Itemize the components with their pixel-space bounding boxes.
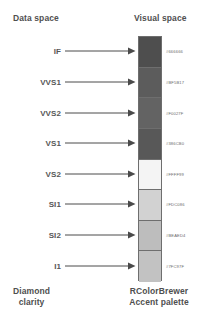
caption-rcolorbrewer-accent-line1: RColorBrewer (120, 286, 198, 297)
arrow-right-icon (65, 47, 136, 56)
palette-swatch-beaed4 (139, 221, 161, 252)
column-captions: Diamond clarity RColorBrewer Accent pale… (0, 286, 201, 314)
palette-swatch-386cb0 (139, 129, 161, 160)
caption-diamond-clarity-line1: Diamond (13, 286, 50, 297)
palette-hex-label: #BEAED4 (166, 233, 185, 238)
palette-hex-label: #FDC086 (166, 202, 185, 207)
header-visual-space: Visual space (134, 13, 187, 23)
arrow-right-icon (65, 77, 136, 86)
caption-diamond-clarity-line2: clarity (13, 297, 50, 308)
arrow-right-icon (65, 200, 136, 209)
arrow-right-icon (65, 169, 136, 178)
column-headers: Data space Visual space (0, 13, 201, 25)
caption-rcolorbrewer-accent: RColorBrewer Accent palette (120, 286, 198, 308)
caption-rcolorbrewer-accent-line2: Accent palette (120, 297, 198, 308)
arrow-right-icon (65, 261, 136, 270)
clarity-category-label-if: IF (0, 47, 61, 56)
clarity-category-label-vvs2: VVS2 (0, 108, 61, 117)
palette-swatch-7fc97f (139, 251, 161, 282)
arrow-right-icon (65, 139, 136, 148)
palette-hex-label: #F0027F (166, 110, 183, 115)
caption-diamond-clarity: Diamond clarity (13, 286, 50, 308)
palette-hex-label: #7FC97F (166, 263, 184, 268)
palette-hex-label: #386CB0 (166, 141, 184, 146)
palette-swatch-ffff99 (139, 160, 161, 191)
clarity-category-label-si1: SI1 (0, 200, 61, 209)
clarity-category-label-si2: SI2 (0, 231, 61, 240)
palette-hex-label: #FFFF99 (166, 171, 184, 176)
palette-swatch-bf5b17 (139, 68, 161, 99)
clarity-category-label-i1: I1 (0, 261, 61, 270)
arrow-right-icon (65, 108, 136, 117)
palette-hex-label: #666666 (166, 49, 183, 54)
palette-hex-label: #BF5B17 (166, 79, 184, 84)
header-data-space: Data space (13, 13, 59, 23)
palette-swatch-fdc086 (139, 190, 161, 221)
mapping-rows: IFVVS1VVS2VS1VS2SI1SI2I1 (0, 36, 201, 281)
palette-swatch-f0027f (139, 98, 161, 129)
arrow-right-icon (65, 231, 136, 240)
clarity-category-label-vvs1: VVS1 (0, 77, 61, 86)
palette-swatch-666666 (139, 37, 161, 68)
clarity-category-label-vs2: VS2 (0, 169, 61, 178)
clarity-category-label-vs1: VS1 (0, 139, 61, 148)
color-palette-column (138, 36, 162, 281)
